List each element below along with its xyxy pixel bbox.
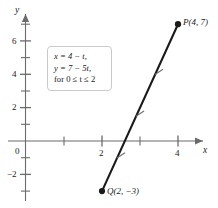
plot-canvas [0, 0, 218, 208]
y-tick-label-4: 4 [12, 70, 17, 79]
x-tick-label-2: 2 [99, 149, 104, 158]
y-tick-label-6: 6 [12, 37, 17, 46]
parametric-segment [102, 24, 178, 191]
y-tick-label-minus-2: −2 [7, 170, 17, 179]
point-label-Q: Q(2, −3) [107, 187, 139, 196]
equation-callout-box: x = 4 − t, y = 7 − 5t, for 0 ≤ t ≤ 2 [47, 46, 112, 91]
y-tick-label-2: 2 [12, 103, 17, 112]
point-label-P: P(4, 7) [183, 18, 208, 27]
x-axis-label: x [203, 146, 207, 156]
parametric-graph-figure: y x 0 2 4 6 4 2 −2 P(4, 7) Q(2, −3) x = … [0, 0, 218, 208]
point-dot-P [175, 21, 181, 27]
origin-tick-label: 0 [15, 147, 20, 156]
y-axis-label: y [15, 6, 19, 16]
equation-line-y: y = 7 − 5t, [54, 63, 106, 75]
x-axis-arrowhead [195, 137, 203, 144]
equation-line-domain: for 0 ≤ t ≤ 2 [54, 74, 106, 86]
x-tick-label-4: 4 [175, 149, 180, 158]
y-axis-arrowhead [22, 14, 29, 22]
equation-line-x: x = 4 − t, [54, 51, 106, 63]
point-dot-Q [99, 188, 105, 194]
